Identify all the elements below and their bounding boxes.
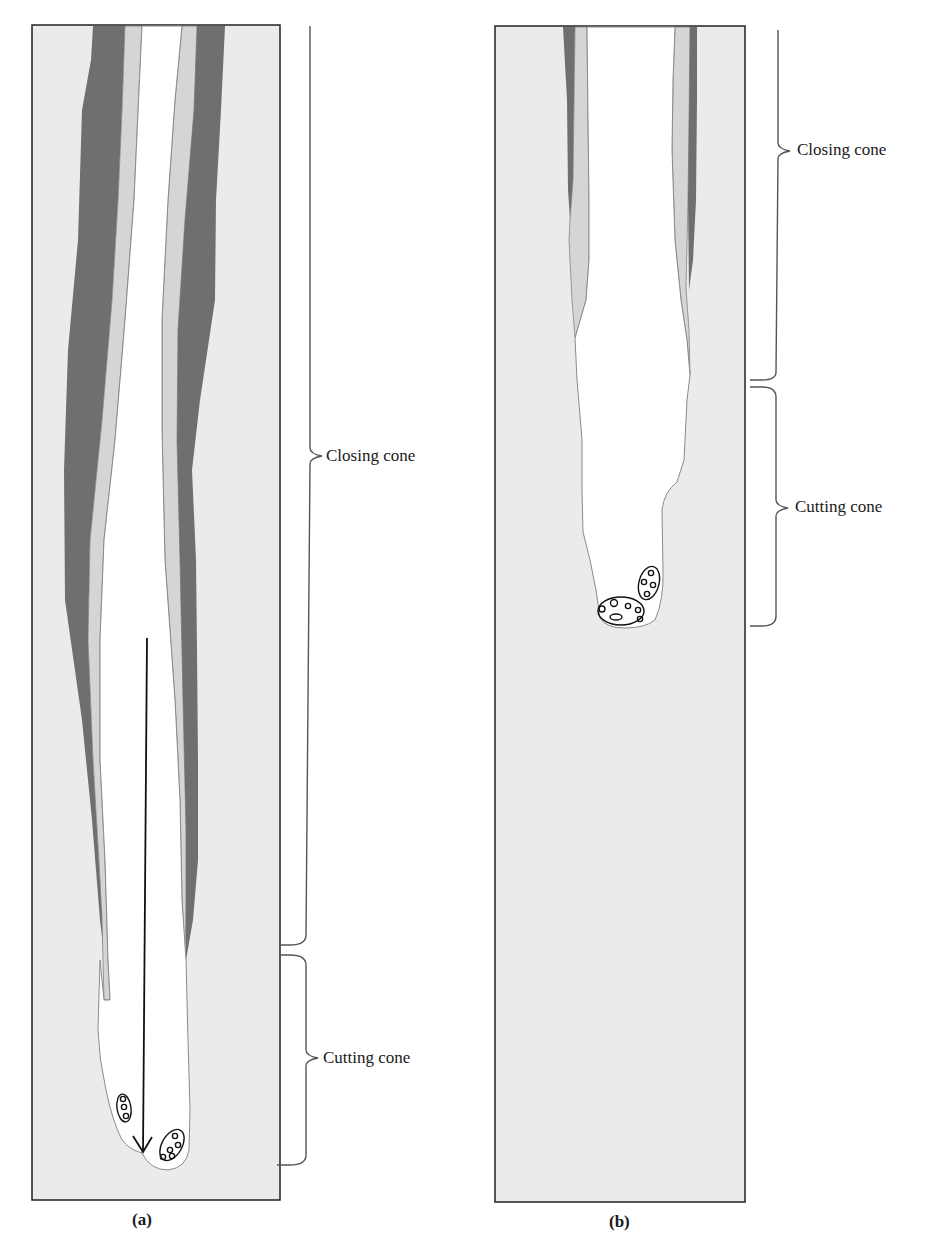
panel-b — [495, 26, 790, 1202]
panel-a-cutting-cone-label: Cutting cone — [323, 1048, 410, 1068]
panel-b-closing-cone-label: Closing cone — [797, 140, 886, 160]
panel-b-cutting-cone-label: Cutting cone — [795, 497, 882, 517]
panel-a-caption: (a) — [132, 1210, 152, 1230]
panel-a-closing-cone-label: Closing cone — [326, 446, 415, 466]
panel-b-caption: (b) — [609, 1212, 630, 1232]
panel-b-cutting-cone-brace — [750, 387, 788, 626]
panel-a-cutting-cone-brace — [277, 955, 318, 1165]
panel-a-closing-cone-brace — [280, 26, 322, 945]
panel-b-closing-cone-brace — [750, 30, 790, 380]
panel-a — [32, 25, 322, 1200]
bone-remodeling-figure — [0, 0, 940, 1254]
